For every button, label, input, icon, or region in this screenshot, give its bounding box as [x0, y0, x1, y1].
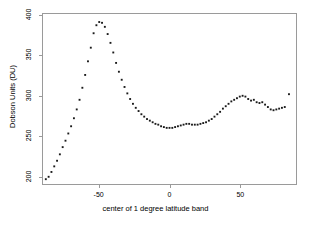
- data-point: [180, 125, 182, 127]
- data-point: [121, 79, 123, 81]
- data-point: [202, 122, 204, 124]
- data-point: [270, 108, 272, 110]
- data-point: [222, 108, 224, 110]
- y-tick-mark: [39, 96, 42, 97]
- data-point: [267, 106, 269, 108]
- data-point: [62, 146, 64, 148]
- data-point: [152, 121, 154, 123]
- data-point: [208, 120, 210, 122]
- data-point: [87, 60, 89, 62]
- data-point: [93, 32, 95, 34]
- data-point: [228, 103, 230, 105]
- data-point: [191, 124, 193, 126]
- data-point: [118, 71, 120, 73]
- data-point: [115, 62, 117, 64]
- data-point: [110, 42, 112, 44]
- data-point: [214, 116, 216, 118]
- data-point: [59, 153, 61, 155]
- y-tick-mark: [39, 15, 42, 16]
- data-point: [211, 118, 213, 120]
- data-point: [197, 124, 199, 126]
- data-point: [56, 160, 58, 162]
- data-point: [90, 47, 92, 49]
- data-point: [149, 120, 151, 122]
- data-point: [288, 93, 290, 95]
- data-point: [124, 86, 126, 88]
- data-point: [253, 99, 255, 101]
- data-point: [185, 123, 187, 125]
- y-tick-mark: [39, 55, 42, 56]
- data-point: [219, 111, 221, 113]
- y-tick-mark: [39, 136, 42, 137]
- data-point: [250, 100, 252, 102]
- y-tick-label: 400: [25, 6, 32, 22]
- x-tick-mark: [99, 185, 100, 188]
- x-axis-title: center of 1 degree latitude band: [0, 204, 311, 213]
- data-point: [194, 124, 196, 126]
- data-point-layer: [43, 14, 296, 184]
- data-point: [244, 96, 246, 98]
- data-point: [48, 176, 50, 178]
- data-point: [233, 99, 235, 101]
- plot-area: [42, 13, 297, 185]
- data-point: [169, 127, 171, 129]
- x-tick-label: -50: [84, 191, 114, 198]
- data-point: [135, 107, 137, 109]
- data-point: [264, 104, 266, 106]
- data-point: [112, 52, 114, 54]
- data-point: [154, 123, 156, 125]
- data-point: [183, 124, 185, 126]
- data-point: [166, 127, 168, 129]
- y-tick-label: 200: [25, 168, 32, 184]
- data-point: [107, 33, 109, 35]
- data-point: [239, 96, 241, 98]
- y-axis-title: Dobson Units (DU): [8, 57, 17, 137]
- y-tick-label: 350: [25, 47, 32, 63]
- ozone-latitude-chart: 200250300350400 -50050 center of 1 degre…: [0, 0, 311, 225]
- data-point: [278, 108, 280, 110]
- data-point: [205, 121, 207, 123]
- data-point: [101, 22, 103, 24]
- data-point: [73, 117, 75, 119]
- data-point: [171, 127, 173, 129]
- data-point: [67, 133, 69, 135]
- data-point: [273, 109, 275, 111]
- data-point: [146, 118, 148, 120]
- data-point: [157, 124, 159, 126]
- data-point: [199, 123, 201, 125]
- data-point: [84, 74, 86, 76]
- y-tick-label: 300: [25, 87, 32, 103]
- data-point: [81, 87, 83, 89]
- y-tick-mark: [39, 177, 42, 178]
- data-point: [132, 103, 134, 105]
- data-point: [98, 21, 100, 23]
- data-point: [284, 106, 286, 108]
- data-point: [50, 171, 52, 173]
- data-point: [225, 105, 227, 107]
- data-point: [79, 99, 81, 101]
- data-point: [163, 126, 165, 128]
- x-tick-label: 0: [155, 191, 185, 198]
- data-point: [45, 178, 47, 180]
- data-point: [236, 97, 238, 99]
- y-tick-label: 250: [25, 128, 32, 144]
- data-point: [281, 107, 283, 109]
- data-point: [138, 110, 140, 112]
- data-point: [174, 126, 176, 128]
- x-tick-mark: [170, 185, 171, 188]
- data-point: [129, 98, 131, 100]
- data-point: [188, 123, 190, 125]
- data-point: [70, 125, 72, 127]
- x-tick-label: 50: [225, 191, 255, 198]
- data-point: [143, 116, 145, 118]
- data-point: [261, 101, 263, 103]
- data-point: [126, 92, 128, 94]
- data-point: [275, 108, 277, 110]
- data-point: [53, 165, 55, 167]
- data-point: [95, 24, 97, 26]
- data-point: [140, 113, 142, 115]
- data-point: [65, 140, 67, 142]
- data-point: [76, 108, 78, 110]
- data-point: [256, 101, 258, 103]
- data-point: [247, 98, 249, 100]
